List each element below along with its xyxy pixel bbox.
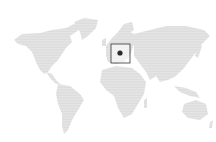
continents bbox=[14, 18, 213, 134]
scandinavia bbox=[118, 22, 134, 34]
north-america bbox=[14, 22, 84, 74]
world-map[interactable] bbox=[0, 0, 216, 142]
uk bbox=[102, 38, 106, 46]
location-marker[interactable] bbox=[111, 44, 130, 63]
marker-dot bbox=[117, 50, 122, 55]
madagascar bbox=[144, 98, 147, 108]
africa bbox=[100, 66, 146, 118]
south-america bbox=[56, 84, 84, 134]
central-america bbox=[46, 72, 60, 84]
australia bbox=[182, 100, 208, 120]
southeast-asia bbox=[174, 86, 200, 98]
world-map-graphic bbox=[0, 0, 216, 142]
new-zealand bbox=[209, 120, 213, 128]
